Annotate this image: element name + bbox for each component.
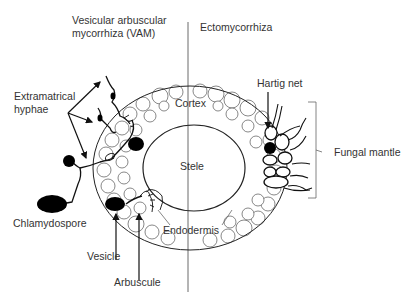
hartig-net-dark-cell [264,142,276,154]
fungal-mantle-bracket [308,102,322,198]
vam-title: Vesicular arbuscular mycorrhiza (VAM) [72,14,167,40]
ecto-title: Ectomycorrhiza [200,21,272,34]
endodermis-label: Endodermis [163,224,219,237]
arbuscule-label: Arbuscule [114,276,161,289]
hyphal-swelling-mid [98,115,103,122]
chlamydospore [37,195,67,213]
hartig-net-label: Hartig net [257,77,303,90]
spore-small [63,155,75,167]
vesicle-label: Vesicle [87,250,120,263]
hartig-net-cells [263,126,292,188]
vesicle [105,197,125,211]
chlamydospore-label: Chlamydospore [13,217,87,230]
extramatrical-hyphae-label: Extramatrical hyphae [14,90,75,116]
stele-label: Stele [180,160,204,173]
hyphal-swelling-top [111,93,116,100]
endodermis-pointers [158,210,232,225]
vesicle-in-cortex [128,137,144,151]
cortex-label: Cortex [175,97,206,110]
fungal-mantle-label: Fungal mantle [334,146,401,159]
